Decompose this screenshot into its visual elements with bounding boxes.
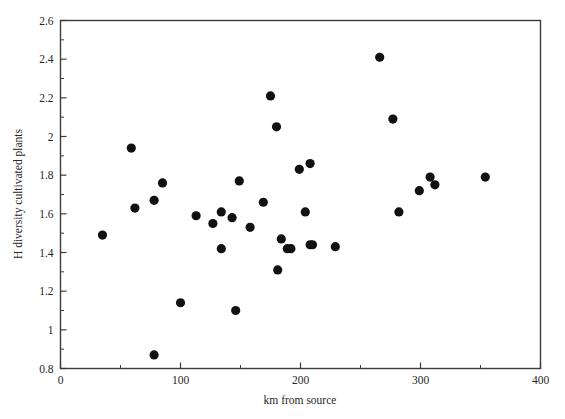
data-point [98,231,107,240]
plot-canvas: 0100200300400 0.811.21.41.61.822.22.42.6… [0,0,565,419]
data-point [130,203,139,212]
data-point [266,91,275,100]
data-point [228,213,237,222]
y-axis-tick-labels: 0.811.21.41.61.822.22.42.6 [39,15,54,375]
data-point [217,244,226,253]
x-axis-tick-labels: 0100200300400 [58,374,550,386]
y-tick-label: 2.6 [39,15,54,27]
y-tick-label: 2.4 [39,53,54,65]
data-point [375,53,384,62]
x-tick-label: 0 [58,374,64,386]
data-point [158,178,167,187]
x-tick-label: 200 [292,374,310,386]
data-point [306,159,315,168]
data-point [150,350,159,359]
data-point [308,240,317,249]
data-point [272,122,281,131]
x-axis-ticks [61,363,541,369]
y-tick-label: 1 [48,324,54,336]
data-point [394,207,403,216]
data-point [286,244,295,253]
data-point [192,211,201,220]
x-tick-label: 100 [172,374,190,386]
x-tick-label: 400 [532,374,550,386]
plot-frame [61,21,541,369]
y-tick-label: 2.2 [39,92,54,104]
data-point [388,115,397,124]
y-axis-title: H diversity cultivated plants [12,128,25,259]
data-point [208,219,217,228]
y-tick-label: 0.8 [39,363,54,375]
data-point [481,173,490,182]
data-points-layer [98,53,490,360]
x-tick-label: 300 [412,374,430,386]
data-point [217,207,226,216]
data-point [273,265,282,274]
data-point [277,234,286,243]
data-point [415,186,424,195]
y-tick-label: 1.8 [39,169,54,181]
data-point [331,242,340,251]
data-point [430,180,439,189]
scatter-plot-figure: 0100200300400 0.811.21.41.61.822.22.42.6… [0,0,565,419]
data-point [150,196,159,205]
x-axis-title: km from source [264,394,337,406]
data-point [246,223,255,232]
y-axis-ticks [61,21,67,369]
y-tick-label: 1.6 [39,208,54,220]
y-tick-label: 1.2 [39,285,54,297]
data-point [301,207,310,216]
data-point [235,176,244,185]
data-point [295,165,304,174]
data-point [426,173,435,182]
data-point [259,198,268,207]
data-point [176,298,185,307]
y-tick-label: 2 [48,131,54,143]
y-tick-label: 1.4 [39,247,54,259]
data-point [231,306,240,315]
data-point [127,144,136,153]
